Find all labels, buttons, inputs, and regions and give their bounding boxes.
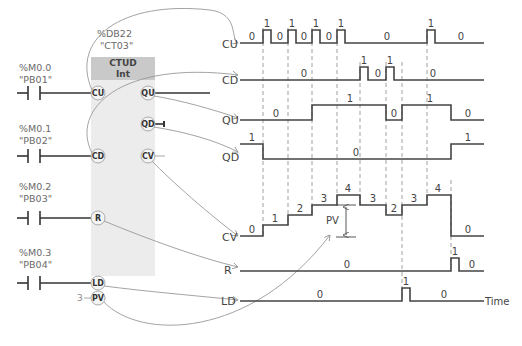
contact-pb02: [17, 149, 91, 163]
svg-text:0: 0: [465, 108, 471, 119]
svg-text:Time: Time: [484, 296, 509, 307]
svg-text:CU: CU: [92, 89, 104, 98]
svg-text:QU: QU: [141, 89, 154, 98]
svg-text:1: 1: [452, 246, 458, 257]
svg-text:3: 3: [411, 193, 417, 204]
svg-text:1: 1: [338, 18, 344, 29]
svg-text:LD: LD: [92, 279, 104, 288]
svg-text:QD: QD: [222, 151, 239, 164]
svg-text:R: R: [224, 264, 232, 277]
svg-text:0: 0: [391, 108, 397, 119]
svg-text:1: 1: [289, 18, 295, 29]
svg-text:0: 0: [317, 289, 323, 300]
svg-text:1: 1: [264, 18, 270, 29]
svg-text:1: 1: [403, 276, 409, 287]
svg-text:2: 2: [297, 203, 303, 214]
svg-text:0: 0: [465, 224, 471, 235]
contact-pb04: [17, 276, 91, 290]
diagram-canvas: 3 CU QU QD CD CV R LD PV: [0, 0, 522, 346]
svg-text:0: 0: [273, 108, 279, 119]
svg-text:QD: QD: [141, 120, 155, 129]
svg-text:PV: PV: [326, 215, 339, 226]
svg-text:CD: CD: [92, 152, 105, 161]
svg-text:1: 1: [249, 132, 255, 143]
svg-text:R: R: [95, 214, 101, 223]
svg-text:1: 1: [347, 93, 353, 104]
svg-text:1: 1: [313, 18, 319, 29]
svg-text:CU: CU: [222, 38, 238, 51]
svg-text:CV: CV: [222, 231, 238, 244]
svg-text:0: 0: [458, 31, 464, 42]
svg-text:1: 1: [427, 93, 433, 104]
svg-text:0: 0: [441, 289, 447, 300]
svg-text:0: 0: [326, 31, 332, 42]
ctud-timing-diagram: CTUD Int %DB22 "CT03" %M0.0 "PB01" %M0.1…: [0, 0, 522, 346]
svg-text:0: 0: [430, 68, 436, 79]
svg-text:CD: CD: [222, 74, 238, 87]
svg-text:0: 0: [301, 31, 307, 42]
svg-text:0: 0: [249, 31, 255, 42]
svg-text:4: 4: [345, 183, 351, 194]
svg-text:QU: QU: [222, 114, 239, 127]
svg-text:0: 0: [301, 68, 307, 79]
svg-text:1: 1: [428, 18, 434, 29]
svg-text:1: 1: [465, 132, 471, 143]
svg-text:CV: CV: [142, 152, 155, 161]
svg-text:3: 3: [370, 193, 376, 204]
svg-text:LD: LD: [221, 295, 236, 308]
svg-text:1: 1: [272, 213, 278, 224]
svg-text:PV: PV: [92, 294, 105, 303]
svg-text:0: 0: [277, 31, 283, 42]
contact-pb01: [17, 86, 91, 100]
svg-text:0: 0: [249, 224, 255, 235]
svg-text:1: 1: [387, 55, 393, 66]
svg-text:0: 0: [353, 147, 359, 158]
svg-text:0: 0: [375, 68, 381, 79]
svg-text:0: 0: [384, 31, 390, 42]
svg-text:2: 2: [391, 203, 397, 214]
contact-pb03: [17, 211, 91, 225]
svg-text:0: 0: [469, 259, 475, 270]
svg-text:3: 3: [321, 193, 327, 204]
svg-text:0: 0: [344, 259, 350, 270]
svg-text:1: 1: [361, 55, 367, 66]
svg-text:4: 4: [435, 183, 441, 194]
pv-constant: 3: [77, 293, 83, 303]
